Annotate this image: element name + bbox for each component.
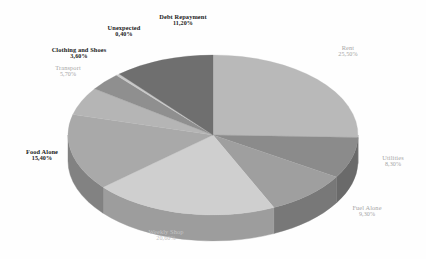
slice-label-name: Food Alone [6, 148, 78, 155]
slice-label-name: Unexpected [86, 24, 162, 31]
slice-label-name: Weekly Shop [130, 228, 202, 235]
slice-label-name: Transport [32, 64, 104, 71]
slice-label-unexpected: Unexpected 0,40% [86, 24, 162, 38]
slice-label-name: Rent [316, 44, 380, 51]
slice-label-value: 15,40% [6, 155, 78, 162]
slice-label-transport: Transport 5,70% [32, 64, 104, 78]
slice-label-name: Utilities [364, 154, 422, 161]
slice-label-name: Fuel Alone [334, 204, 400, 211]
slice-label-weekly-shop: Weekly Shop 20,60% [130, 228, 202, 242]
pie-slice-rent [213, 55, 358, 138]
slice-label-value: 9,30% [334, 211, 400, 218]
slice-label-value: 25,50% [316, 51, 380, 58]
slice-label-rent: Rent 25,50% [316, 44, 380, 58]
slice-label-clothing-and-shoes: Clothing and Shoes 3,60% [33, 46, 125, 60]
slice-label-utilities: Utilities 8,30% [364, 154, 422, 168]
pie-chart-canvas [0, 0, 426, 259]
slice-label-value: 3,60% [33, 53, 125, 60]
slice-label-fuel-alone: Fuel Alone 9,30% [334, 204, 400, 218]
slice-label-value: 5,70% [32, 71, 104, 78]
slice-label-food-alone: Food Alone 15,40% [6, 148, 78, 162]
slice-label-value: 20,60% [130, 235, 202, 242]
slice-label-name: Debt Repayment [143, 13, 223, 20]
slice-label-value: 0,40% [86, 31, 162, 38]
slice-label-name: Clothing and Shoes [33, 46, 125, 53]
pie-chart-figure: Debt Repayment 11,20% Unexpected 0,40% C… [0, 0, 426, 259]
pie-slice-group [68, 55, 358, 215]
slice-label-value: 8,30% [364, 161, 422, 168]
